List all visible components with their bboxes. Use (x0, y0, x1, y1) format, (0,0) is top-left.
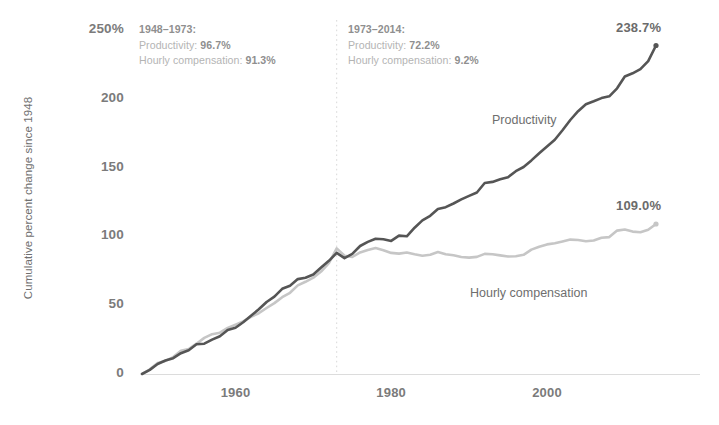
series-label-hourly-compensation: Hourly compensation (470, 286, 587, 300)
end-value-label-productivity: 238.7% (616, 20, 661, 35)
series-endpoint-hourly-compensation (653, 221, 658, 226)
plot-area (0, 0, 719, 425)
series-line-productivity (142, 46, 656, 375)
end-value-label-hourly-compensation: 109.0% (616, 198, 661, 213)
series-endpoint-productivity (653, 43, 658, 48)
chart-container: Cumulative percent change since 1948 250… (0, 0, 719, 425)
series-label-productivity: Productivity (492, 113, 557, 127)
